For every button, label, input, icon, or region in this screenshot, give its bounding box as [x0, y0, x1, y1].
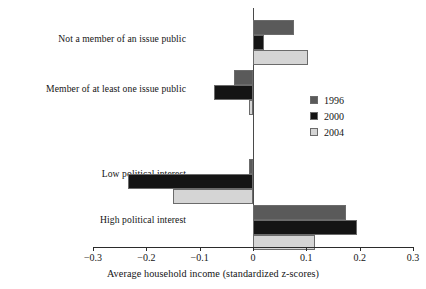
legend-label: 2004 — [324, 127, 344, 138]
x-axis-tick — [200, 247, 201, 251]
bar — [214, 85, 253, 100]
legend-item-1996: 1996 — [310, 92, 390, 108]
x-axis-tick — [93, 247, 94, 251]
legend-item-2004: 2004 — [310, 124, 390, 140]
legend-swatch-icon — [310, 128, 318, 136]
legend: 1996 2000 2004 — [310, 92, 390, 140]
x-axis-tick — [306, 247, 307, 251]
x-axis-tick — [253, 247, 254, 251]
x-axis-tick-label: 0 — [251, 252, 256, 263]
bar — [173, 189, 253, 204]
x-axis-tick-label: −0.1 — [191, 252, 209, 263]
legend-label: 2000 — [324, 111, 344, 122]
bar — [253, 205, 346, 220]
legend-swatch-icon — [310, 96, 318, 104]
x-axis-tick-label: −0.2 — [137, 252, 155, 263]
bar — [253, 20, 294, 35]
bar — [253, 35, 264, 50]
bar — [249, 159, 253, 174]
bar — [128, 174, 253, 189]
x-axis-tick-label: 0.1 — [300, 252, 313, 263]
bar — [253, 220, 357, 235]
bar-chart: Not a member of an issue public Member o… — [0, 0, 426, 289]
x-axis-tick-label: 0.3 — [407, 252, 420, 263]
x-axis-title: Average household income (standardized z… — [0, 268, 426, 279]
bar — [234, 70, 253, 85]
legend-label: 1996 — [324, 95, 344, 106]
x-axis-tick — [146, 247, 147, 251]
x-axis-tick — [360, 247, 361, 251]
legend-swatch-icon — [310, 112, 318, 120]
bar — [249, 100, 253, 115]
x-axis-tick-label: 0.2 — [353, 252, 366, 263]
legend-item-2000: 2000 — [310, 108, 390, 124]
x-axis-tick — [413, 247, 414, 251]
x-axis-tick-label: −0.3 — [84, 252, 102, 263]
bar — [253, 50, 308, 65]
